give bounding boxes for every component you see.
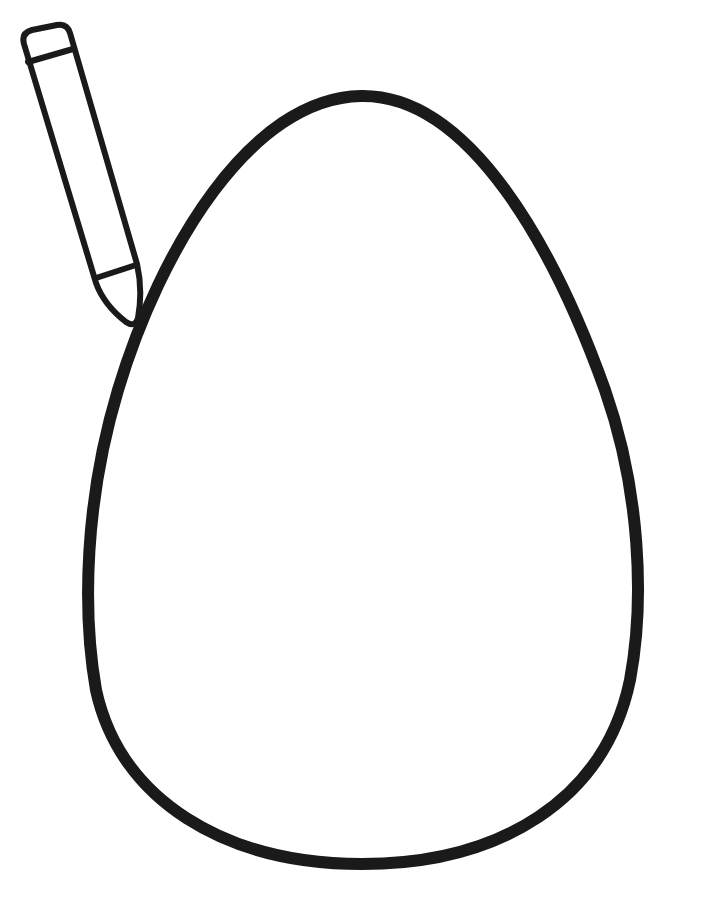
crayon-cap-band — [28, 49, 73, 62]
crayon-body — [23, 25, 140, 325]
illustration-svg — [0, 0, 713, 901]
coloring-page-canvas: egg-outline crayon — [0, 0, 713, 901]
egg-outline-shape — [88, 96, 638, 864]
crayon-icon — [23, 25, 140, 325]
crayon-tip-band — [96, 265, 136, 278]
